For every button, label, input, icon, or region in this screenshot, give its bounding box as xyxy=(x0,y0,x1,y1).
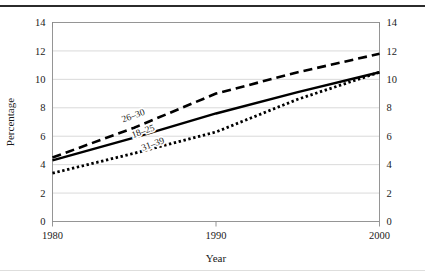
line-chart: 02468101214 02468101214 198019902000 26–… xyxy=(0,0,425,277)
y-tick-label-right: 12 xyxy=(387,46,398,57)
y-axis-title: Percentage xyxy=(4,98,16,146)
y-tick-label-left: 12 xyxy=(35,46,46,57)
y-tick-label-right: 2 xyxy=(387,188,392,199)
series-lines xyxy=(53,54,380,173)
y-tick-label-left: 8 xyxy=(40,102,45,113)
series-label-31-39: 31–39 xyxy=(140,135,166,153)
y-tick-label-left: 10 xyxy=(35,74,46,85)
x-axis-ticks: 198019902000 xyxy=(42,23,390,241)
chart-svg: 02468101214 02468101214 198019902000 26–… xyxy=(0,0,425,277)
series-label-26-30: 26–30 xyxy=(120,107,146,125)
y-axis-right-ticks: 02468101214 xyxy=(387,17,398,227)
y-tick-label-left: 6 xyxy=(40,131,45,142)
y-tick-label-left: 4 xyxy=(40,159,46,170)
y-tick-label-right: 14 xyxy=(387,17,398,28)
x-axis-title: Year xyxy=(206,252,227,264)
x-tick-label: 1980 xyxy=(42,230,63,241)
y-tick-label-right: 0 xyxy=(387,216,392,227)
y-tick-label-left: 0 xyxy=(40,216,45,227)
series-line-18-25 xyxy=(53,72,380,160)
series-line-31-39 xyxy=(53,72,380,173)
figure: 02468101214 02468101214 198019902000 26–… xyxy=(0,0,425,277)
y-axis-left-ticks: 02468101214 xyxy=(35,17,46,227)
x-tick-label: 1990 xyxy=(206,230,227,241)
y-tick-label-right: 8 xyxy=(387,102,392,113)
y-tick-label-left: 2 xyxy=(40,188,45,199)
series-line-26-30 xyxy=(53,54,380,158)
x-tick-label: 2000 xyxy=(369,230,390,241)
y-tick-label-right: 10 xyxy=(387,74,398,85)
series-label-18-25: 18–25 xyxy=(130,122,156,140)
gridlines xyxy=(53,51,380,193)
y-tick-label-right: 4 xyxy=(387,159,393,170)
y-tick-label-right: 6 xyxy=(387,131,392,142)
plot-frame xyxy=(53,23,380,222)
y-tick-label-left: 14 xyxy=(35,17,46,28)
